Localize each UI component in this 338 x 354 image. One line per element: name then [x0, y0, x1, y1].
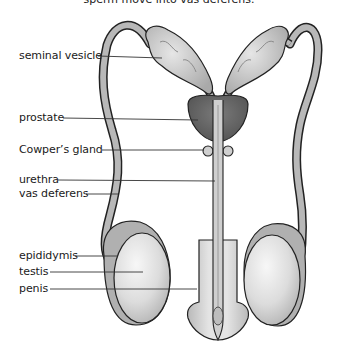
seminal-vesicle-right [226, 26, 289, 94]
label-testis: testis [19, 266, 48, 278]
label-vas-deferens: vas deferens [19, 188, 88, 200]
vas-deferens-right [290, 27, 318, 262]
testis-left [103, 221, 170, 325]
testis-right [244, 224, 306, 326]
label-cowpers-gland: Cowper’s gland [19, 144, 103, 156]
label-urethra: urethra [19, 174, 59, 186]
label-seminal-vesicle: seminal vesicle [19, 50, 102, 62]
leader-prostate [63, 118, 198, 120]
leader-urethra [58, 180, 215, 181]
label-prostate: prostate [19, 112, 64, 124]
urethra-tube [213, 100, 223, 340]
seminal-vesicle-left [146, 26, 213, 94]
label-penis: penis [19, 283, 48, 295]
label-epididymis: epididymis [19, 250, 78, 262]
